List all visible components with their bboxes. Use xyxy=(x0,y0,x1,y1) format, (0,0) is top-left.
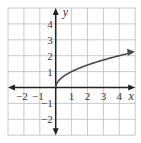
sqrt-curve xyxy=(56,49,135,88)
svg-text:1: 1 xyxy=(69,90,75,102)
svg-text:2: 2 xyxy=(85,90,91,102)
svg-text:−2: −2 xyxy=(41,113,53,125)
svg-text:4: 4 xyxy=(47,18,53,30)
svg-text:3: 3 xyxy=(47,34,53,46)
svg-text:2: 2 xyxy=(47,50,53,62)
svg-text:−2: −2 xyxy=(16,90,28,102)
svg-text:x: x xyxy=(128,89,135,103)
svg-text:1: 1 xyxy=(47,66,53,78)
tick-labels: −2−112344321−1−2xy xyxy=(16,5,134,125)
svg-text:3: 3 xyxy=(101,90,107,102)
graph: −2−112344321−1−2xy xyxy=(0,0,141,143)
svg-text:4: 4 xyxy=(117,90,123,102)
svg-text:−1: −1 xyxy=(41,97,53,109)
svg-text:y: y xyxy=(62,5,69,19)
